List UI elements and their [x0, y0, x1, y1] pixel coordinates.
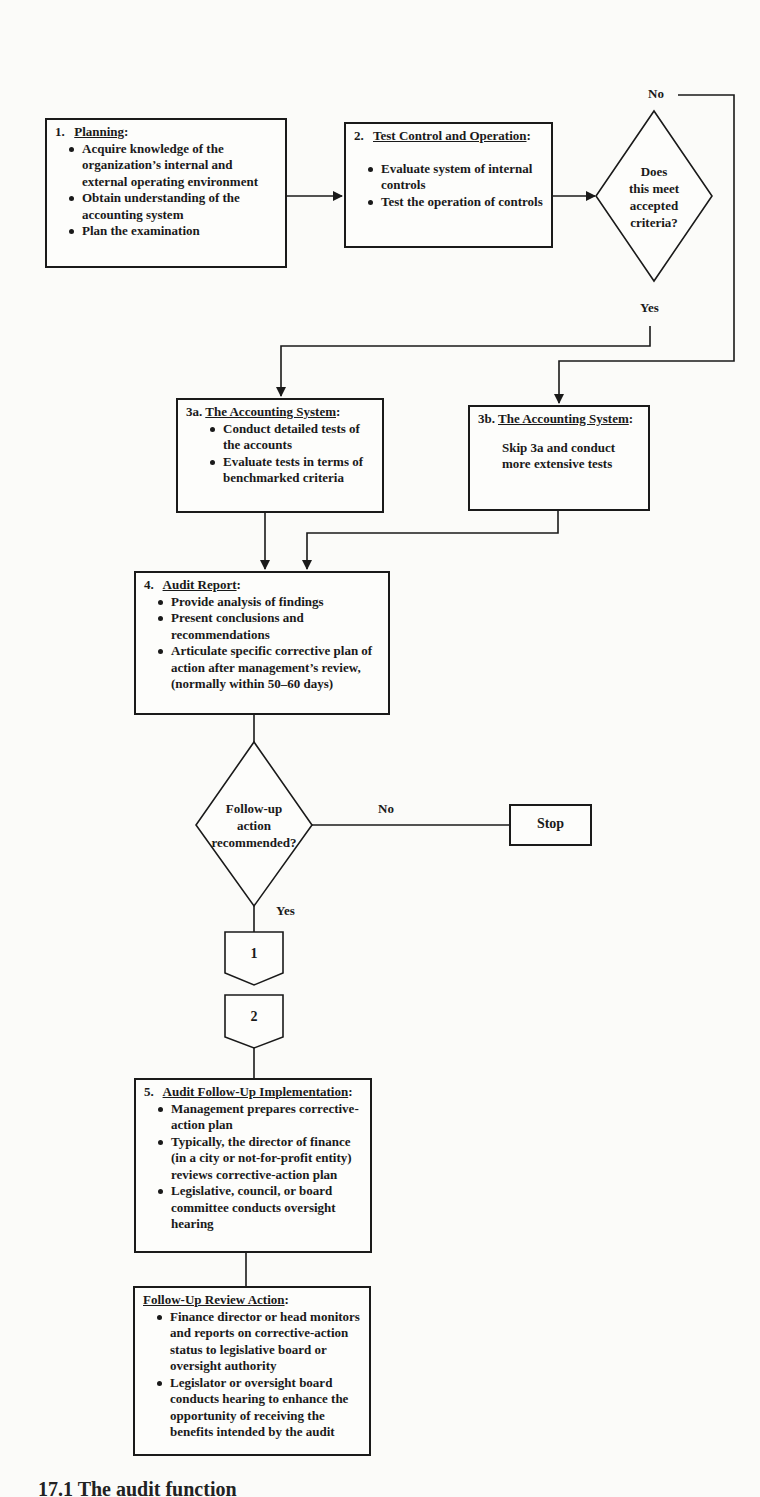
- list-item: Test the operation of controls: [368, 194, 543, 211]
- followup-implementation-box: 5. Audit Follow-Up Implementation: Manag…: [134, 1078, 372, 1253]
- decision-line: this meet: [604, 180, 704, 197]
- step-title: The Accounting System: [205, 404, 336, 419]
- decision-line: accepted: [604, 197, 704, 214]
- step-number: 4.: [144, 577, 160, 594]
- step-number: 1.: [55, 124, 71, 141]
- criteria-decision: Does this meet accepted criteria?: [604, 163, 704, 231]
- followup-decision: Follow-up action recommended?: [199, 800, 309, 851]
- step-title: Planning: [74, 124, 124, 139]
- accounting-3a-box: 3a. The Accounting System: Conduct detai…: [176, 398, 384, 513]
- stop-box: Stop: [509, 804, 592, 846]
- accounting-3b-text: Skip 3a and conduct more extensive tests: [478, 440, 640, 473]
- list-item: Acquire knowledge of the organization’s …: [69, 141, 277, 191]
- criteria-yes-label: Yes: [640, 300, 659, 316]
- followup-no-label: No: [378, 801, 394, 817]
- list-item: Legislative, council, or board committee…: [158, 1183, 362, 1233]
- step-title: Audit Report: [163, 577, 237, 592]
- list-item: Provide analysis of findings: [158, 594, 380, 611]
- figure-caption: 17.1 The audit function: [38, 1478, 237, 1497]
- list-item: Evaluate tests in terms of benchmarked c…: [210, 454, 374, 487]
- step-title: Follow-Up Review Action: [143, 1292, 285, 1307]
- test-control-list: Evaluate system of internal controls Tes…: [354, 161, 543, 211]
- step-title: Test Control and Operation: [373, 128, 527, 143]
- accounting-3b-box: 3b. The Accounting System: Skip 3a and c…: [468, 405, 650, 511]
- planning-heading: 1. Planning:: [55, 124, 277, 141]
- audit-report-heading: 4. Audit Report:: [144, 577, 380, 594]
- decision-line: criteria?: [604, 214, 704, 231]
- step-number: 5.: [144, 1084, 160, 1101]
- audit-report-list: Provide analysis of findings Present con…: [144, 594, 380, 693]
- list-item: Finance director or head monitors and re…: [157, 1309, 361, 1375]
- decision-line: Does: [604, 163, 704, 180]
- decision-line: recommended?: [199, 834, 309, 851]
- accounting-3b-heading: 3b. The Accounting System:: [478, 411, 640, 428]
- followup-yes-label: Yes: [276, 903, 295, 919]
- followup-implementation-list: Management prepares corrective-action pl…: [144, 1101, 362, 1233]
- step-title: Audit Follow-Up Implementation: [163, 1084, 349, 1099]
- step-title: The Accounting System: [498, 411, 629, 426]
- stop-label: Stop: [537, 816, 564, 831]
- list-item: Evaluate system of internal controls: [368, 161, 543, 194]
- step-number: 2.: [354, 128, 370, 145]
- list-item: Legislator or oversight board conducts h…: [157, 1375, 361, 1441]
- list-item: Management prepares corrective-action pl…: [158, 1101, 362, 1134]
- step-number: 3b.: [478, 411, 495, 428]
- accounting-3a-heading: 3a. The Accounting System:: [186, 404, 374, 421]
- planning-list: Acquire knowledge of the organization’s …: [55, 141, 277, 240]
- test-control-box: 2. Test Control and Operation: Evaluate …: [344, 122, 553, 248]
- audit-report-box: 4. Audit Report: Provide analysis of fin…: [134, 571, 390, 715]
- test-control-heading: 2. Test Control and Operation:: [354, 128, 543, 145]
- decision-line: action: [199, 817, 309, 834]
- audit-flowchart: 1. Planning: Acquire knowledge of the or…: [0, 0, 760, 1497]
- list-item: Conduct detailed tests of the accounts: [210, 421, 374, 454]
- followup-implementation-heading: 5. Audit Follow-Up Implementation:: [144, 1084, 362, 1101]
- list-item: Articulate specific corrective plan of a…: [158, 643, 380, 693]
- followup-review-box: Follow-Up Review Action: Finance directo…: [133, 1286, 371, 1456]
- list-item: Present conclusions and recommendations: [158, 610, 380, 643]
- list-item: Obtain understanding of the accounting s…: [69, 190, 277, 223]
- planning-box: 1. Planning: Acquire knowledge of the or…: [45, 118, 287, 268]
- step-number: 3a.: [186, 404, 202, 421]
- list-item: Typically, the director of finance (in a…: [158, 1134, 362, 1184]
- criteria-no-label: No: [648, 86, 664, 102]
- decision-line: Follow-up: [199, 800, 309, 817]
- list-item: Plan the examination: [69, 223, 277, 240]
- offpage-connector-2: 2: [225, 1009, 283, 1025]
- followup-review-list: Finance director or head monitors and re…: [143, 1309, 361, 1441]
- accounting-3a-list: Conduct detailed tests of the accounts E…: [186, 421, 374, 487]
- followup-review-heading: Follow-Up Review Action:: [143, 1292, 361, 1309]
- offpage-connector-1: 1: [225, 946, 283, 962]
